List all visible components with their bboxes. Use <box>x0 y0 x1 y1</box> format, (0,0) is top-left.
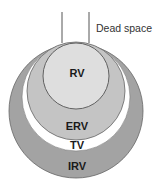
rv-label: RV <box>69 67 85 79</box>
dead-space-label: Dead space <box>96 22 152 34</box>
erv-label: ERV <box>66 120 89 132</box>
tv-label: TV <box>70 139 85 151</box>
lung-volumes-diagram: Dead space RV ERV TV IRV <box>0 0 157 193</box>
irv-label: IRV <box>68 160 87 172</box>
